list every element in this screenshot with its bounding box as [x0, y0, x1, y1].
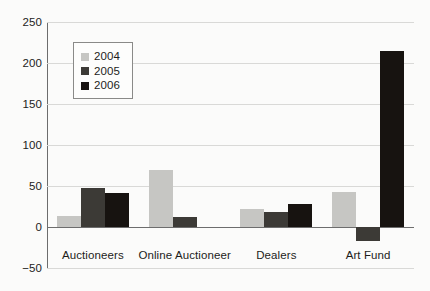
y-tick-label: 50 [2, 180, 42, 192]
gridline [47, 22, 414, 23]
x-tick-label: Online Auctioneer [138, 249, 230, 261]
x-tick-label: Dealers [256, 249, 296, 261]
legend-label: 2004 [94, 51, 120, 63]
bar [380, 51, 404, 227]
legend-swatch-2005 [81, 67, 89, 75]
legend-label: 2006 [94, 80, 120, 92]
legend-item: 2004 [81, 51, 123, 63]
gridline [47, 145, 414, 146]
bar [264, 212, 288, 227]
y-axis-tick-labels: 250200150100500−50 [0, 0, 42, 291]
bar [288, 204, 312, 227]
legend-swatch-2004 [81, 53, 89, 61]
legend-swatch-2006 [81, 82, 89, 90]
y-tick-label: 200 [2, 57, 42, 69]
gridline [47, 268, 414, 269]
y-tick-label: 0 [2, 221, 42, 233]
y-tick-label: 250 [2, 16, 42, 28]
gridline [47, 104, 414, 105]
bar [105, 193, 129, 227]
bar [81, 188, 105, 227]
y-tick-label: 100 [2, 139, 42, 151]
bar [173, 217, 197, 227]
legend-label: 2005 [94, 66, 120, 78]
bar [57, 216, 81, 227]
bar-chart: 250200150100500−50 AuctioneersOnline Auc… [0, 0, 430, 291]
bar [356, 227, 380, 241]
bar [240, 209, 264, 227]
legend-item: 2005 [81, 66, 123, 78]
y-tick-label: −50 [2, 262, 42, 274]
bar [332, 192, 356, 227]
bar [149, 170, 173, 227]
x-tick-label: Art Fund [346, 249, 391, 261]
legend-item: 2006 [81, 80, 123, 92]
x-tick-label: Auctioneers [62, 249, 124, 261]
legend: 2004 2005 2006 [73, 42, 133, 99]
y-tick-label: 150 [2, 98, 42, 110]
